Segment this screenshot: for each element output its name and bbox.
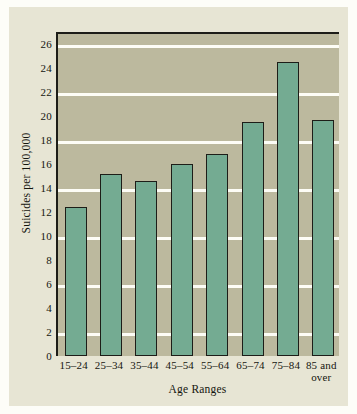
bar [135, 181, 157, 356]
y-axis-tick-label: 12 [12, 207, 52, 218]
bar [242, 122, 264, 356]
plot-area [56, 32, 339, 356]
bar [171, 164, 193, 356]
bar [100, 174, 122, 356]
x-axis-tick-label: 85 andover [291, 359, 351, 383]
y-axis-tick-label: 2 [12, 327, 52, 338]
y-axis-tick-label: 20 [12, 111, 52, 122]
bar [277, 62, 299, 356]
y-axis-tick-label: 18 [12, 135, 52, 146]
y-axis-ticks: 02468101214161820222426 [9, 32, 52, 356]
y-axis-tick-label: 22 [12, 87, 52, 98]
y-axis-tick-label: 16 [12, 159, 52, 170]
chart-figure: Suicides per 100,000 0246810121416182022… [9, 7, 348, 406]
bar [65, 207, 87, 356]
y-axis-tick-label: 6 [12, 279, 52, 290]
y-axis-tick-label: 8 [12, 255, 52, 266]
y-axis-tick-label: 4 [12, 303, 52, 314]
x-axis-title: Age Ranges [56, 383, 339, 395]
bar [206, 154, 228, 356]
y-axis-tick-label: 10 [12, 231, 52, 242]
gridline [58, 45, 339, 48]
bar [312, 120, 334, 356]
y-axis-tick-label: 24 [12, 63, 52, 74]
y-axis-tick-label: 14 [12, 183, 52, 194]
y-axis-tick-label: 26 [12, 39, 52, 50]
